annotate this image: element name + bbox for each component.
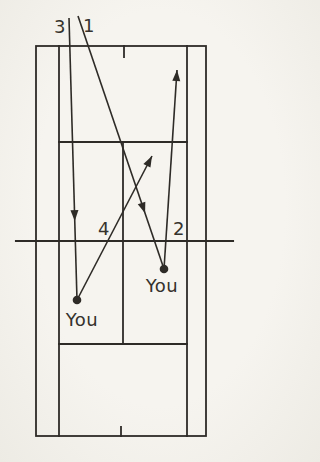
shot-2-label: 2 (173, 218, 185, 239)
shot-1-label: 1 (83, 15, 95, 36)
shot-arrows: 1234 (54, 15, 185, 300)
shot-3-label: 3 (54, 16, 66, 37)
shot-4-line (77, 156, 152, 300)
player-right-dot (160, 265, 169, 274)
shot-4-arrowhead-icon (143, 156, 152, 168)
shot-3-arrowhead-icon (70, 210, 78, 221)
player-left-label: You (65, 309, 99, 330)
shot-1-arrowhead-icon (138, 202, 146, 214)
player-right-label: You (145, 275, 179, 296)
player-markers: YouYou (65, 265, 179, 330)
shot-2-line (164, 70, 177, 269)
shot-4-label: 4 (98, 218, 110, 239)
shot-2-arrowhead-icon (172, 70, 180, 81)
tennis-shot-diagram-figure: 1234YouYou (0, 0, 250, 462)
player-left-dot (73, 296, 82, 305)
tennis-court-diagram: 1234YouYou (0, 0, 250, 462)
court-lines (16, 46, 233, 436)
shot-3-line (69, 18, 77, 300)
